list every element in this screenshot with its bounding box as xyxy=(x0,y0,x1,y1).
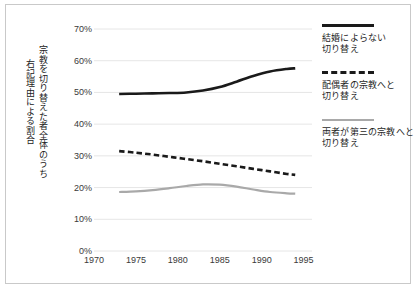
y-axis-title-inner: 宗教を切り替えた者全体のうち xyxy=(37,45,48,178)
y-axis-tick-label: 70% xyxy=(62,24,92,34)
legend-entry[interactable]: 結婚によらない切り替え xyxy=(322,21,414,55)
x-axis-tick-label: 1980 xyxy=(168,255,188,265)
series-line xyxy=(119,151,295,175)
y-axis-tick-label: 10% xyxy=(62,214,92,224)
x-axis-tick-label: 1985 xyxy=(210,255,230,265)
legend-label: 切り替え xyxy=(322,44,414,55)
y-axis-tick-label: 20% xyxy=(62,183,92,193)
x-axis-tick-labels: 197019751980198519901995 xyxy=(94,255,334,271)
legend-swatch xyxy=(322,68,414,77)
plot-area xyxy=(94,29,312,251)
y-axis-tick-label: 40% xyxy=(62,119,92,129)
series-lines xyxy=(94,29,312,251)
x-axis-tick-label: 1995 xyxy=(294,255,314,265)
legend-swatch xyxy=(322,115,414,124)
series-line xyxy=(119,68,295,94)
y-axis-tick-label: 50% xyxy=(62,87,92,97)
y-axis-tick-labels: 70%60%50%40%30%20%10%0% xyxy=(58,29,92,251)
x-axis-tick-label: 1975 xyxy=(126,255,146,265)
legend-label: 結婚によらない xyxy=(322,33,414,44)
legend-label: 配偶者の宗教へと xyxy=(322,80,414,91)
y-axis-title-outer: 右記理由による割合 xyxy=(24,45,35,145)
legend-entry[interactable]: 配偶者の宗教へと切り替え xyxy=(322,68,414,102)
dashed-black-line-icon xyxy=(322,71,374,74)
solid-gray-line-icon xyxy=(322,119,374,121)
legend-label: 両者が第三の宗教へと xyxy=(322,127,414,138)
legend-label: 切り替え xyxy=(322,91,414,102)
chart-frame: 右記理由による割合 宗教を切り替えた者全体のうち 70%60%50%40%30%… xyxy=(5,4,411,284)
legend-label: 切り替え xyxy=(322,138,414,149)
x-axis-tick-label: 1990 xyxy=(252,255,272,265)
chart-legend: 結婚によらない切り替え配偶者の宗教へと切り替え両者が第三の宗教へと切り替え xyxy=(322,21,414,162)
y-axis-title-group: 右記理由による割合 宗教を切り替えた者全体のうち xyxy=(16,45,56,245)
solid-black-line-icon xyxy=(322,24,374,27)
y-axis-tick-label: 60% xyxy=(62,56,92,66)
legend-swatch xyxy=(322,21,414,30)
x-axis-tick-label: 1970 xyxy=(84,255,104,265)
series-line xyxy=(119,184,295,193)
y-axis-tick-label: 30% xyxy=(62,151,92,161)
legend-entry[interactable]: 両者が第三の宗教へと切り替え xyxy=(322,115,414,149)
